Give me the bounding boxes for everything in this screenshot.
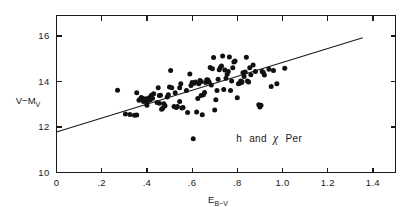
data-point bbox=[115, 88, 120, 93]
data-point bbox=[191, 136, 196, 141]
data-point bbox=[166, 92, 171, 97]
y-axis-title: V−MV bbox=[16, 95, 41, 108]
data-point bbox=[173, 90, 178, 95]
data-point bbox=[177, 99, 182, 104]
data-point bbox=[242, 74, 247, 79]
data-point bbox=[134, 90, 139, 95]
data-point bbox=[239, 80, 244, 85]
x-axis-title: EB−V bbox=[208, 194, 228, 207]
x-tick-label: .8 bbox=[233, 177, 242, 188]
data-point bbox=[227, 54, 232, 59]
x-tick-label: 1.4 bbox=[366, 177, 380, 188]
data-point bbox=[210, 66, 215, 71]
scatter-chart: 0.2.4.6.81.01.21.4 10121416 EB−V V−MV ha… bbox=[0, 0, 408, 206]
data-point bbox=[155, 100, 160, 105]
data-point bbox=[282, 66, 287, 71]
data-point bbox=[248, 72, 253, 77]
data-point bbox=[127, 112, 132, 117]
x-tick-label: .4 bbox=[143, 177, 152, 188]
data-point bbox=[209, 82, 214, 87]
data-point bbox=[243, 69, 248, 74]
data-point bbox=[175, 104, 180, 109]
data-point bbox=[123, 112, 128, 117]
x-tick-label: 1.0 bbox=[275, 177, 289, 188]
x-tick-label: .2 bbox=[97, 177, 106, 188]
data-point bbox=[229, 79, 234, 84]
data-point bbox=[168, 68, 173, 73]
data-point bbox=[219, 64, 224, 69]
x-tick-label: 1.2 bbox=[321, 177, 335, 188]
data-point bbox=[187, 71, 192, 76]
data-point bbox=[220, 54, 225, 59]
axis-frame bbox=[57, 16, 396, 173]
y-tick-label: 12 bbox=[38, 121, 49, 132]
data-point bbox=[213, 97, 218, 102]
data-point bbox=[233, 59, 238, 64]
data-point bbox=[181, 105, 186, 110]
data-point bbox=[269, 84, 274, 89]
data-point bbox=[162, 103, 167, 108]
x-axis-ticks bbox=[57, 16, 373, 173]
data-point bbox=[274, 81, 279, 86]
data-point bbox=[169, 85, 174, 90]
data-point bbox=[134, 112, 139, 117]
data-point bbox=[156, 85, 161, 90]
data-point bbox=[212, 107, 217, 112]
data-points-group bbox=[115, 54, 287, 142]
x-axis-label: EB−V bbox=[208, 194, 228, 207]
data-point bbox=[216, 77, 221, 82]
data-point bbox=[184, 88, 189, 93]
data-point bbox=[251, 63, 256, 68]
data-point bbox=[230, 65, 235, 70]
x-tick-label: .6 bbox=[188, 177, 197, 188]
y-axis-ticks bbox=[57, 36, 396, 173]
data-point bbox=[178, 81, 183, 86]
y-axis-label: V−MV bbox=[16, 95, 41, 108]
data-point bbox=[150, 96, 155, 101]
data-point bbox=[262, 73, 267, 78]
plot-frame bbox=[57, 16, 396, 173]
y-tick-label: 16 bbox=[38, 30, 49, 41]
data-point bbox=[259, 103, 264, 108]
data-point bbox=[158, 93, 163, 98]
data-point bbox=[244, 55, 249, 60]
chart-title-group: handχPer bbox=[236, 132, 302, 145]
data-point bbox=[194, 109, 199, 114]
data-point bbox=[228, 88, 233, 93]
data-point bbox=[151, 91, 156, 96]
data-point bbox=[144, 103, 149, 108]
data-point bbox=[214, 88, 219, 93]
x-axis-tick-labels: 0.2.4.6.81.01.21.4 bbox=[54, 177, 380, 188]
y-tick-label: 14 bbox=[38, 76, 49, 87]
data-point bbox=[199, 93, 204, 98]
data-point bbox=[226, 69, 231, 74]
data-point bbox=[200, 112, 205, 117]
data-point bbox=[235, 95, 240, 100]
data-point bbox=[246, 79, 251, 84]
data-point bbox=[266, 67, 271, 72]
data-point bbox=[221, 87, 226, 92]
figure-container: 0.2.4.6.81.01.21.4 10121416 EB−V V−MV ha… bbox=[0, 0, 408, 206]
chart-title: handχPer bbox=[236, 132, 302, 145]
x-tick-label: 0 bbox=[54, 177, 60, 188]
data-point bbox=[253, 69, 258, 74]
data-point bbox=[199, 79, 204, 84]
y-tick-label: 10 bbox=[38, 167, 49, 178]
data-point bbox=[211, 55, 216, 60]
data-point bbox=[271, 68, 276, 73]
data-point bbox=[185, 110, 190, 115]
